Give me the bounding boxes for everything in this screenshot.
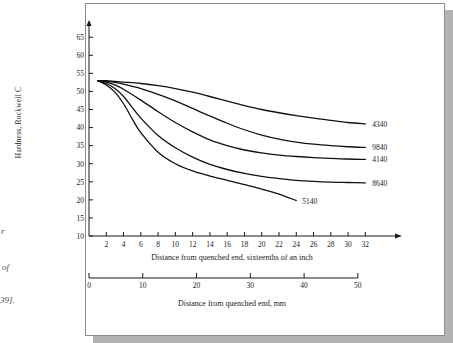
jominy-hardenability-chart: 101520253035404550556065 246810121416182… [0,0,453,343]
y-tick-label: 65 [77,33,85,42]
y-tick-label: 20 [77,196,85,205]
y-tick-label: 15 [77,214,85,223]
y-tick-label: 30 [77,160,85,169]
x-tick-label: 6 [139,240,143,249]
y-tick-label: 55 [77,69,85,78]
curve-group [98,81,366,201]
y-tick-label: 50 [77,87,85,96]
x-axis-title-inches: Distance from quenched end, sixteenths o… [89,253,375,262]
y-tick-label: 45 [77,105,85,114]
x-axis-mm: 01020304050 [87,273,362,290]
y-tick-label: 10 [77,232,85,241]
x-tick-label: 2 [104,240,108,249]
curve-8640 [98,81,366,183]
mm-tick-label: 0 [87,281,91,290]
y-axis: 101520253035404550556065 [77,20,94,241]
mm-tick-label: 10 [139,281,147,290]
y-tick-label: 60 [77,51,85,60]
screenshot-root: r of 39]. 101520253035404550556065 24681… [0,0,453,343]
y-tick-label: 40 [77,123,85,132]
x-tick-label: 18 [241,240,249,249]
x-tick-label: 28 [327,240,335,249]
x-tick-label: 32 [362,240,370,249]
x-tick-label: 30 [344,240,352,249]
y-tick-label: 35 [77,141,85,150]
x-tick-label: 26 [310,240,318,249]
x-axis-inches: 2468101214161820222426283032 [89,232,402,249]
mm-tick-label: 40 [300,281,308,290]
mm-tick-label: 30 [247,281,255,290]
x-tick-label: 12 [189,240,197,249]
curve-label-4140: 4140 [372,155,387,164]
x-tick-label: 14 [206,240,214,249]
curve-label-5140: 5140 [302,197,317,206]
x-tick-label: 24 [293,240,301,249]
x-tick-label: 10 [172,240,180,249]
curve-5140 [98,81,297,201]
curve-label-8640: 8640 [372,179,387,188]
y-tick-label: 25 [77,178,85,187]
curve-labels: 43409840414086405140 [302,120,387,206]
x-axis-arrow [395,233,402,238]
x-tick-label: 8 [156,240,160,249]
mm-tick-label: 50 [354,281,362,290]
x-tick-label: 16 [223,240,231,249]
y-axis-title: Hardness, Rockwell C [14,68,23,178]
mm-tick-label: 20 [193,281,201,290]
x-tick-label: 4 [122,240,126,249]
x-axis-title-mm: Distance from quenched end, mm [89,299,375,308]
curve-label-9840: 9840 [372,143,387,152]
curve-label-4340: 4340 [372,120,387,129]
x-tick-label: 22 [275,240,283,249]
x-tick-label: 20 [258,240,266,249]
y-axis-arrow [86,20,91,26]
